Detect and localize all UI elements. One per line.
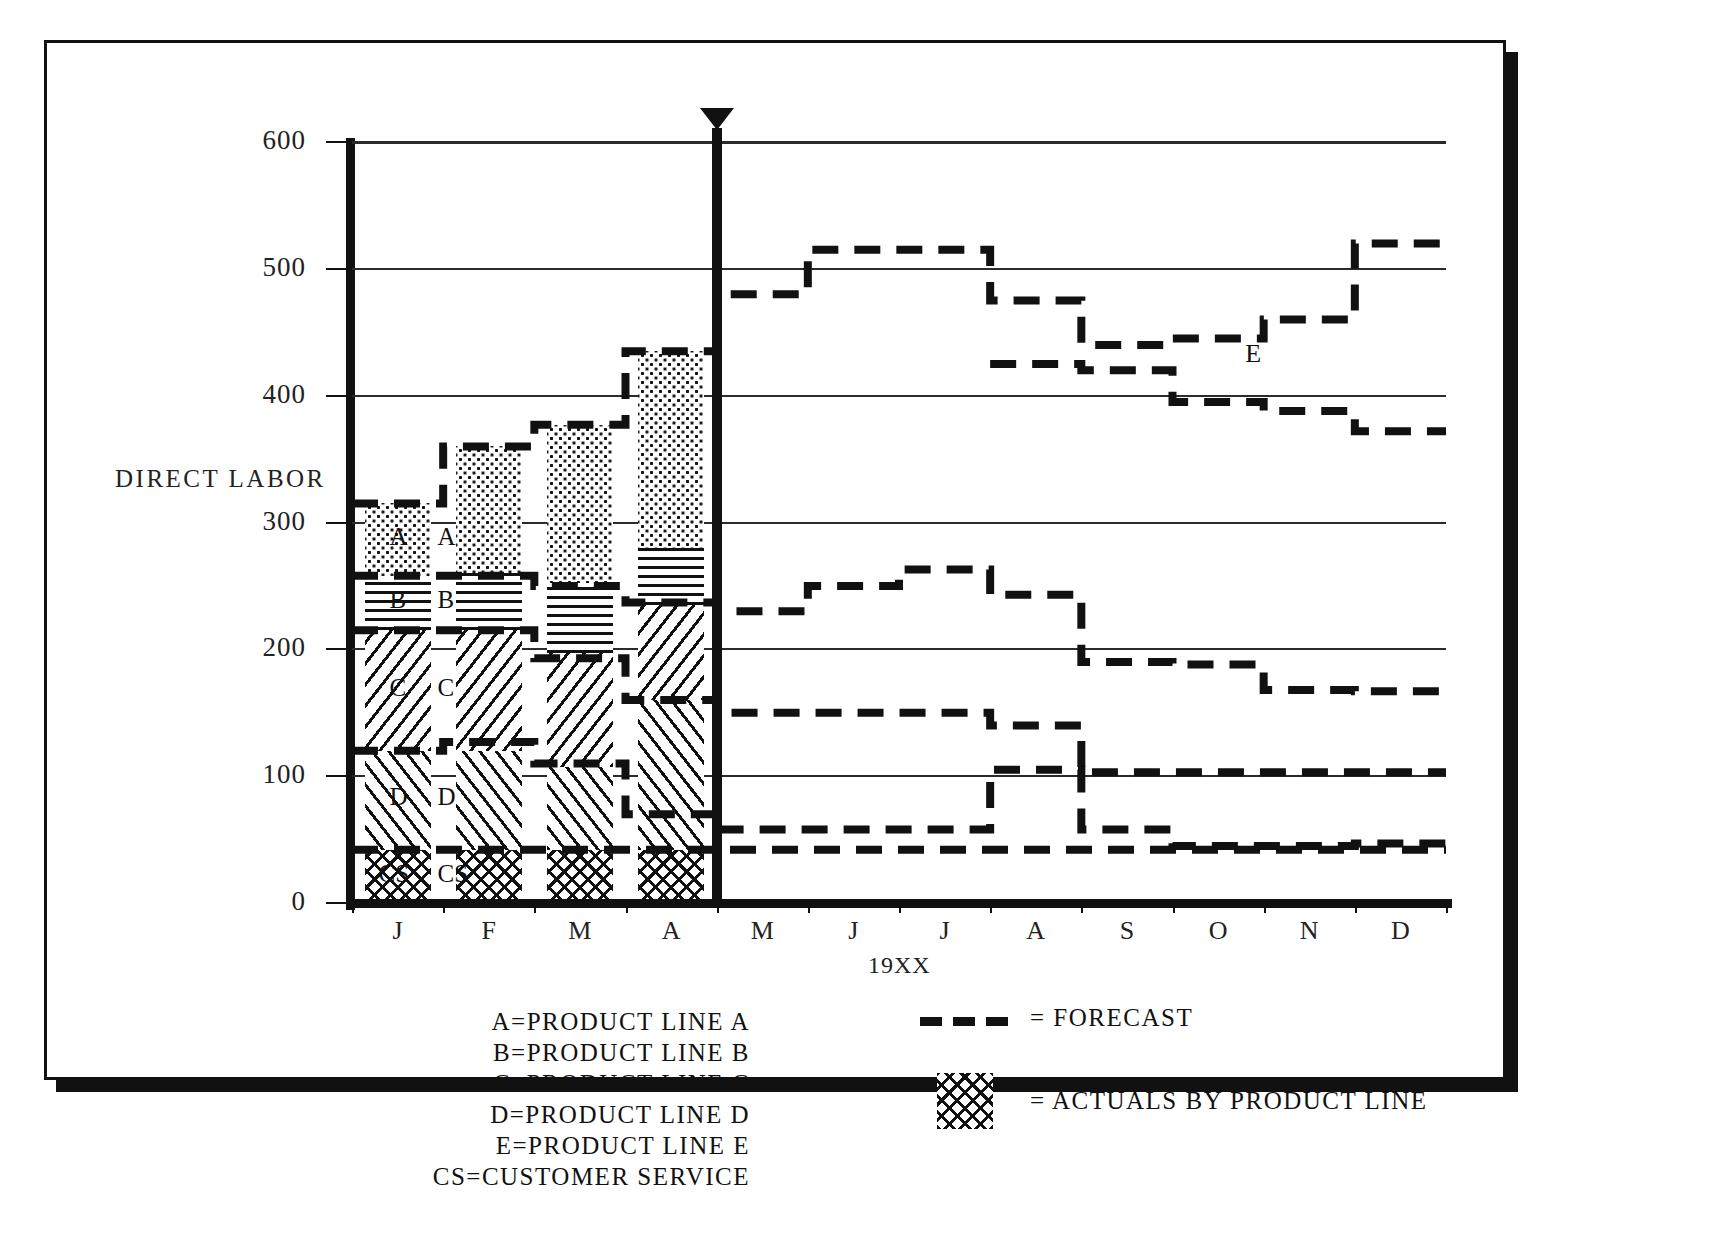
y-axis-tick (326, 522, 352, 524)
y-axis-title: DIRECT LABOR (115, 465, 326, 493)
x-axis-tick-label: M (742, 916, 782, 946)
x-axis-tick (1081, 899, 1083, 913)
x-axis-tick (808, 899, 810, 913)
x-axis-tick (1446, 899, 1448, 913)
y-axis-tick (326, 395, 352, 397)
y-axis-tick (326, 775, 352, 777)
x-axis-tick (899, 899, 901, 913)
legend-line: A=PRODUCT LINE A (420, 1006, 750, 1037)
forecast-line-c-top (352, 630, 1446, 772)
x-axis-tick-label: D (1380, 916, 1420, 946)
legend-line: CS=CUSTOMER SERVICE (420, 1161, 750, 1192)
y-axis-tick (326, 648, 352, 650)
x-axis-tick-label: F (469, 916, 509, 946)
x-axis-tick-label: A (651, 916, 691, 946)
y-axis-tick-label: 300 (226, 506, 306, 537)
y-axis-tick-label: 400 (226, 379, 306, 410)
y-axis-tick-label: 0 (226, 886, 306, 917)
forecast-line-total (352, 243, 1446, 503)
forecast-lines (352, 142, 1446, 903)
x-axis-line: JFMAMJJASOND (346, 899, 1452, 908)
y-axis-tick-label: 200 (226, 632, 306, 663)
actual-forecast-divider (712, 128, 722, 907)
forecast-line-d-top (352, 742, 1446, 846)
x-axis-tick-label: J (833, 916, 873, 946)
x-axis-tick (534, 899, 536, 913)
x-axis-tick (990, 899, 992, 913)
forecast-line-b-top (352, 569, 1446, 691)
legend-forecast-dash-icon (920, 1017, 1010, 1026)
x-axis-tick (352, 899, 354, 913)
legend-forecast-label: = FORECAST (1030, 1004, 1193, 1032)
x-axis-tick-label: M (560, 916, 600, 946)
chart-page: DIRECT LABOR 0100200300400500600AABBCCDD… (0, 0, 1727, 1244)
x-axis-tick (1173, 899, 1175, 913)
x-axis-tick-label: J (925, 916, 965, 946)
divider-arrow-icon (700, 108, 734, 130)
legend-line: C=PRODUCT LINE C (420, 1068, 750, 1099)
x-axis-tick (443, 899, 445, 913)
x-axis-tick-label: J (378, 916, 418, 946)
y-axis-tick-label: 600 (226, 125, 306, 156)
x-axis-tick (1355, 899, 1357, 913)
legend-line: B=PRODUCT LINE B (420, 1037, 750, 1068)
x-axis-tick-label: N (1289, 916, 1329, 946)
x-axis-tick-label: A (1016, 916, 1056, 946)
x-axis-tick-label: S (1107, 916, 1147, 946)
y-axis-tick-label: 500 (226, 252, 306, 283)
legend-actuals-swatch-icon (937, 1073, 993, 1129)
legend-actuals-label: = ACTUALS BY PRODUCT LINE (1030, 1087, 1427, 1115)
y-axis-tick (326, 268, 352, 270)
x-axis-title: 19XX (868, 952, 931, 979)
legend-line: E=PRODUCT LINE E (420, 1130, 750, 1161)
x-axis-tick (626, 899, 628, 913)
x-axis-tick (1264, 899, 1266, 913)
legend-line: D=PRODUCT LINE D (420, 1099, 750, 1130)
y-axis-tick-label: 100 (226, 759, 306, 790)
forecast-line-e-upper (990, 364, 1446, 431)
legend-product-lines: A=PRODUCT LINE AB=PRODUCT LINE BC=PRODUC… (420, 1006, 750, 1192)
y-axis-tick (326, 141, 352, 143)
plot-area: 0100200300400500600AABBCCDDCSCSE (352, 142, 1446, 903)
annotation-product-line-e: E (1245, 339, 1261, 369)
x-axis-tick-label: O (1198, 916, 1238, 946)
